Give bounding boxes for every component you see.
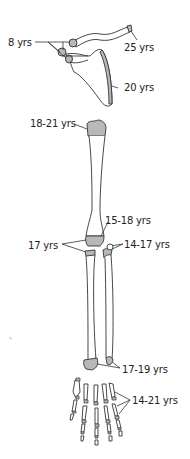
hand bbox=[70, 380, 122, 445]
label-14-21yrs: 14-21 yrs bbox=[132, 395, 178, 406]
label-17yrs: 17 yrs bbox=[28, 240, 58, 251]
label-8yrs: 8 yrs bbox=[8, 37, 32, 48]
radius-distal-epiphysis bbox=[106, 357, 113, 365]
leader-20yrs bbox=[112, 86, 118, 88]
label-18-21yrs: 18-21 yrs bbox=[30, 118, 76, 129]
leader-18-21 bbox=[74, 124, 87, 129]
ulna-shaft bbox=[86, 255, 96, 360]
skeleton-diagram bbox=[0, 0, 190, 459]
ulna-proximal bbox=[85, 250, 95, 256]
humerus-head bbox=[87, 120, 106, 136]
label-15-18yrs: 15-18 yrs bbox=[105, 215, 151, 226]
radius-shaft bbox=[105, 255, 113, 360]
humerus-distal-epiphysis bbox=[86, 236, 104, 246]
stray-mark bbox=[9, 337, 12, 339]
ulna-distal-epiphysis bbox=[84, 358, 98, 370]
leader-14-21 bbox=[115, 392, 130, 414]
clavicle bbox=[72, 27, 130, 47]
leader-25yrs bbox=[131, 31, 137, 40]
label-17-19yrs: 17-19 yrs bbox=[122, 364, 168, 375]
label-25yrs: 25 yrs bbox=[124, 42, 154, 53]
acromion-epiphysis bbox=[69, 39, 77, 47]
humerus-shaft bbox=[86, 136, 105, 236]
leader-17 bbox=[62, 240, 86, 252]
label-14-17yrs: 14-17 yrs bbox=[124, 239, 170, 250]
label-20yrs: 20 yrs bbox=[124, 82, 154, 93]
